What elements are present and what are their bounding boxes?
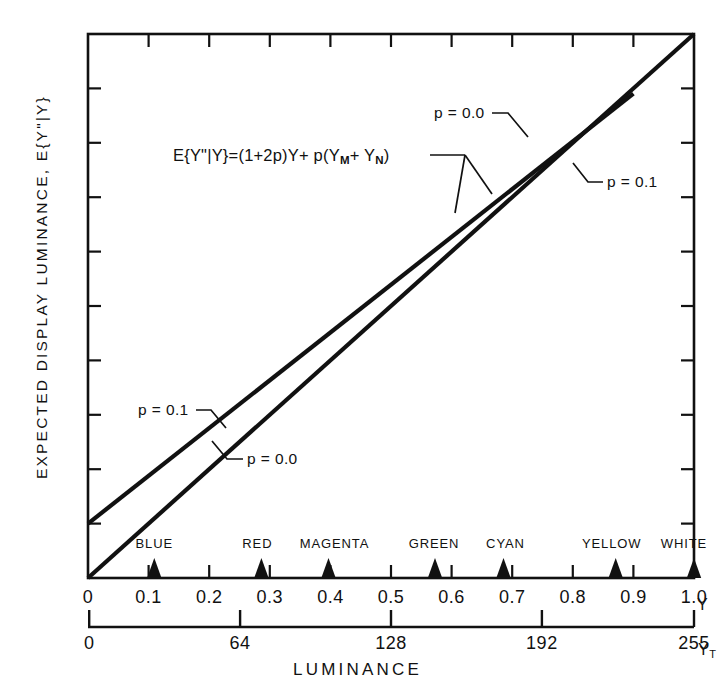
x-tick-label: 0.6 — [428, 588, 476, 606]
secondary-x-tick-label: 192 — [518, 634, 566, 652]
y-axis-title: EXPECTED DISPLAY LUMINANCE, E{Y"|Y} — [33, 77, 51, 497]
equation-rhs-a: (1+2p)Y+ p(Y — [238, 146, 339, 164]
equation-sub-m: M — [340, 154, 350, 166]
x-tick-label: 0.7 — [488, 588, 536, 606]
x-tick-label: 0 — [64, 588, 112, 606]
marker-triangle-green — [428, 558, 442, 578]
secondary-x-tick-label: 128 — [367, 634, 415, 652]
x-tick-label: 0.4 — [306, 588, 354, 606]
x-axis-ticks — [149, 565, 634, 578]
equation-lhs: E{Y"|Y} — [173, 146, 229, 164]
equation-leader — [430, 155, 492, 213]
x-tick-label: 0.9 — [609, 588, 657, 606]
equation-annotation: E{Y"|Y}=(1+2p)Y+ p(YM+ YN) — [173, 146, 389, 166]
equation-sub-n: N — [375, 154, 384, 166]
secondary-x-axis-symbol-base: Y — [698, 641, 709, 658]
secondary-x-axis-symbol-sub: T — [709, 648, 716, 660]
line-label-p00-upper: p = 0.0 — [434, 104, 485, 122]
x-tick-label: 0.5 — [367, 588, 415, 606]
x-tick-label: 0.8 — [549, 588, 597, 606]
color-label-cyan: CYAN — [461, 536, 551, 551]
line-label-p01-left: p = 0.1 — [138, 401, 189, 419]
equation-rhs-c: ) — [384, 146, 390, 164]
x-axis-symbol: Y — [697, 596, 708, 614]
y-axis-ticks — [88, 88, 101, 523]
line-label-p01-lower: p = 0.1 — [607, 173, 658, 191]
marker-triangle-cyan — [496, 558, 510, 578]
secondary-axis-ticks — [89, 610, 694, 627]
x-tick-label: 0.1 — [125, 588, 173, 606]
secondary-x-tick-label: 0 — [65, 634, 113, 652]
x-tick-label: 0.2 — [185, 588, 233, 606]
x-tick-label: 1.0 — [670, 588, 718, 606]
equation-rhs-b: + Y — [350, 146, 376, 164]
marker-triangle-red — [254, 558, 268, 578]
secondary-x-tick-label: 64 — [216, 634, 264, 652]
marker-triangle-magenta — [321, 558, 335, 578]
y-axis-ticks-right — [681, 88, 694, 523]
secondary-x-axis-symbol: YT — [698, 641, 716, 660]
x-tick-label: 0.3 — [246, 588, 294, 606]
x-axis-ticks-top — [149, 34, 634, 47]
line-label-p00-left: p = 0.0 — [247, 450, 298, 468]
secondary-x-axis-title: LUMINANCE — [0, 660, 715, 680]
leader-p00-upper — [492, 113, 528, 137]
marker-triangle-white — [687, 558, 701, 578]
leader-p01-lower — [573, 163, 603, 182]
marker-triangle-yellow — [609, 558, 623, 578]
equation-equals: = — [229, 146, 239, 164]
color-label-white: WHITE — [639, 536, 721, 551]
color-markers — [147, 558, 701, 578]
color-label-blue: BLUE — [109, 536, 199, 551]
color-label-magenta: MAGENTA — [290, 536, 380, 551]
